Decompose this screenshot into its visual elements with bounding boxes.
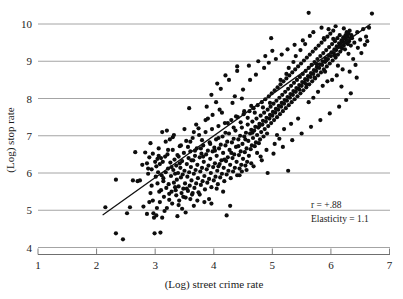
data-point (195, 198, 199, 202)
data-point (324, 58, 328, 62)
data-point (275, 115, 279, 119)
data-point (228, 204, 232, 208)
y-tick-label: 6 (27, 167, 33, 179)
data-point (255, 133, 259, 137)
data-point (251, 136, 255, 140)
data-point (214, 100, 218, 104)
data-point (272, 118, 276, 122)
data-point (209, 185, 213, 189)
data-point (278, 82, 282, 86)
data-point (255, 151, 259, 155)
data-point (244, 168, 248, 172)
y-tick-label: 4 (27, 242, 33, 254)
data-point (336, 64, 340, 68)
data-point (216, 136, 220, 140)
data-point (201, 155, 205, 159)
data-point (213, 149, 217, 153)
data-point (175, 178, 179, 182)
data-point (294, 54, 298, 58)
data-point (192, 204, 196, 208)
data-point (202, 174, 206, 178)
data-point (334, 24, 338, 28)
data-point (172, 133, 176, 137)
data-point (257, 124, 261, 128)
data-point (325, 79, 329, 83)
data-point (215, 169, 219, 173)
data-point (155, 206, 159, 210)
data-point (160, 216, 164, 220)
x-tick-label: 3 (152, 259, 158, 271)
data-point (114, 178, 118, 182)
data-point (233, 94, 237, 98)
data-point (215, 154, 219, 158)
data-point (232, 137, 236, 141)
data-point (201, 179, 205, 183)
data-point (178, 166, 182, 170)
data-point (131, 178, 135, 182)
data-point (332, 53, 336, 57)
data-point (365, 39, 369, 43)
y-axis-title: (Log) stop rate (4, 107, 17, 172)
data-point (319, 26, 323, 30)
data-point (247, 64, 251, 68)
data-point (257, 141, 261, 145)
data-point (128, 205, 132, 209)
data-point (218, 175, 222, 179)
data-point (331, 58, 335, 62)
data-point (358, 38, 362, 42)
data-point (226, 155, 230, 159)
data-point (291, 60, 295, 64)
data-point (325, 64, 329, 68)
data-point (225, 172, 229, 176)
data-point (217, 146, 221, 150)
data-point (223, 143, 227, 147)
data-point (152, 231, 156, 235)
data-point (181, 195, 185, 199)
data-point (267, 117, 271, 121)
data-point (192, 186, 196, 190)
data-point (206, 117, 210, 121)
data-point (179, 143, 183, 147)
data-point (180, 207, 184, 211)
data-point (150, 184, 154, 188)
data-point (243, 137, 247, 141)
data-point (192, 172, 196, 176)
data-point (225, 213, 229, 217)
data-point (268, 101, 272, 105)
data-point (227, 131, 231, 135)
data-point (239, 120, 243, 124)
data-point (199, 183, 203, 187)
data-point (239, 149, 243, 153)
data-point (185, 187, 189, 191)
data-point (186, 145, 190, 149)
data-point (292, 97, 296, 101)
data-point (355, 76, 359, 80)
data-point (296, 117, 300, 121)
data-point (314, 46, 318, 50)
data-point (346, 52, 350, 56)
data-point (133, 150, 137, 154)
data-point (270, 114, 274, 118)
correlation-annotation: r = +.88 (311, 200, 342, 210)
data-point (184, 139, 188, 143)
data-point (348, 29, 352, 33)
data-point (198, 155, 202, 159)
data-point (170, 201, 174, 205)
data-point (302, 58, 306, 62)
data-point (189, 158, 193, 162)
data-point (239, 163, 243, 167)
data-point (172, 157, 176, 161)
data-point (281, 109, 285, 113)
data-point (251, 164, 255, 168)
data-point (341, 67, 345, 71)
data-point (266, 171, 270, 175)
data-point (363, 43, 367, 47)
data-point (220, 172, 224, 176)
data-point (271, 152, 275, 156)
data-point (145, 212, 149, 216)
data-point (316, 73, 320, 77)
data-point (230, 156, 234, 160)
data-point (168, 160, 172, 164)
data-point (216, 124, 220, 128)
data-point (271, 102, 275, 106)
